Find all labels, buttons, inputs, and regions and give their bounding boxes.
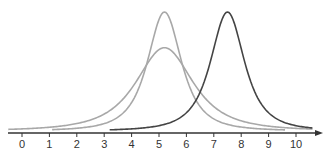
- x-tick-label: 0: [19, 138, 25, 150]
- x-tick-label: 2: [74, 138, 80, 150]
- x-axis-arrow-icon: [315, 130, 323, 136]
- x-tick-label: 6: [183, 138, 189, 150]
- x-tick-label: 10: [290, 138, 302, 150]
- x-tick-label: 3: [101, 138, 107, 150]
- x-tick-label: 7: [211, 138, 217, 150]
- x-tick-label: 4: [129, 138, 135, 150]
- narrow-gray-curve: [52, 12, 285, 130]
- dark-curve: [110, 12, 313, 130]
- x-tick-label: 5: [156, 138, 162, 150]
- x-tick-label: 9: [266, 138, 272, 150]
- bell-curves-chart: 012345678910: [0, 0, 330, 151]
- x-tick-label: 1: [46, 138, 52, 150]
- curves-group: [8, 12, 312, 130]
- x-tick-label: 8: [238, 138, 244, 150]
- wide-gray-curve: [8, 48, 312, 130]
- x-axis: 012345678910: [8, 130, 323, 150]
